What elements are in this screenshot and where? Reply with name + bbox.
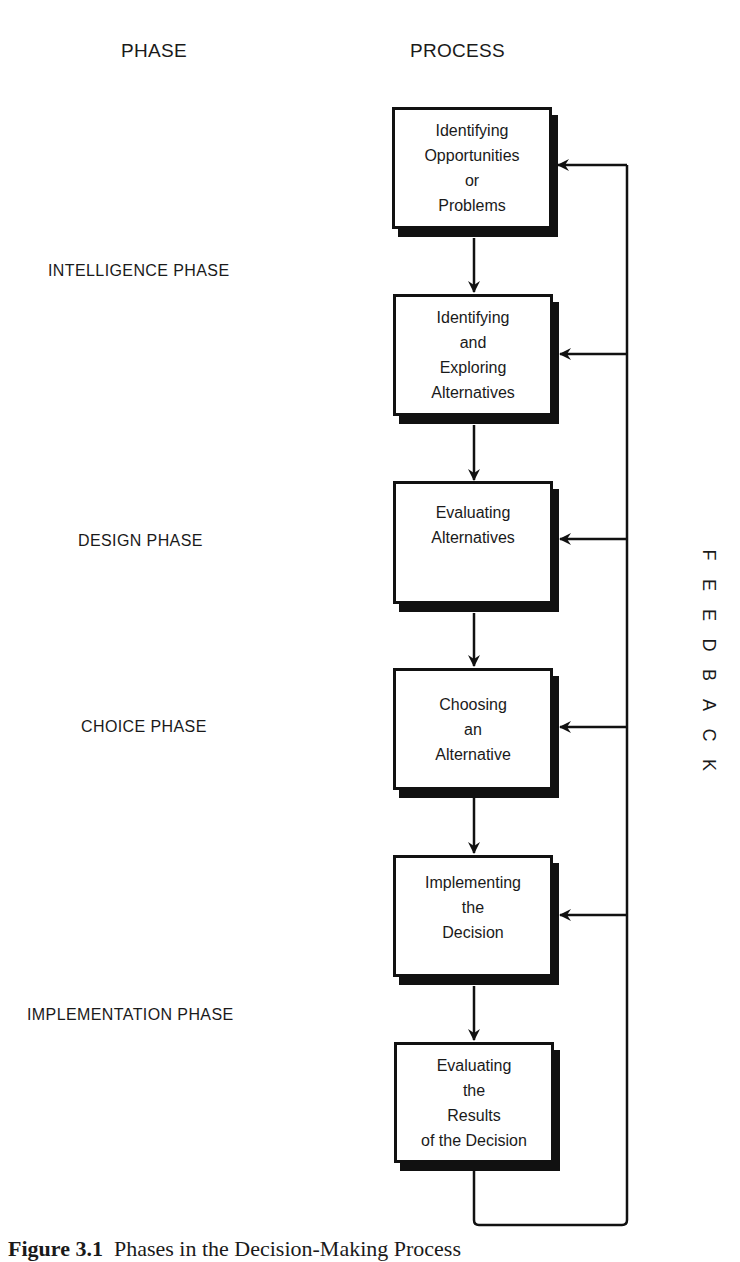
process-step-choosing-alternative: Choosing an Alternative [393, 668, 553, 790]
feedback-letter: F [694, 543, 724, 567]
step-text: Problems [424, 193, 519, 218]
step-text: Evaluating [421, 1053, 527, 1078]
figure-caption: Figure 3.1 Phases in the Decision-Making… [8, 1236, 461, 1262]
feedback-label: F E E D B A C K [697, 540, 721, 780]
feedback-letter: C [694, 723, 724, 747]
step-text: Results [421, 1103, 527, 1128]
step-text: the [425, 895, 521, 920]
process-step-exploring-alternatives: Identifying and Exploring Alternatives [393, 294, 553, 416]
step-text: Opportunities [424, 143, 519, 168]
step-text: Alternative [435, 742, 511, 767]
process-step-evaluating-results: Evaluating the Results of the Decision [394, 1042, 554, 1163]
step-text: an [435, 717, 511, 742]
step-text: Implementing [425, 870, 521, 895]
step-text: Alternatives [431, 380, 515, 405]
step-text: Choosing [435, 692, 511, 717]
process-step-evaluating-alternatives: Evaluating Alternatives [393, 481, 553, 604]
process-step-identifying-opportunities: Identifying Opportunities or Problems [392, 107, 552, 229]
process-step-implementing-decision: Implementing the Decision [393, 855, 553, 977]
step-text: Identifying [424, 118, 519, 143]
step-text: Alternatives [431, 525, 515, 550]
feedback-letter: E [694, 603, 724, 627]
figure-number: Figure 3.1 [8, 1236, 103, 1261]
step-text: and [431, 330, 515, 355]
feedback-letter: K [694, 753, 724, 777]
step-text: Evaluating [431, 500, 515, 525]
step-text: or [424, 168, 519, 193]
step-text: the [421, 1078, 527, 1103]
step-text: Identifying [431, 305, 515, 330]
step-text: of the Decision [421, 1128, 527, 1153]
step-text: Exploring [431, 355, 515, 380]
feedback-letter: B [694, 663, 724, 687]
feedback-letter: D [694, 633, 724, 657]
figure-caption-text: Phases in the Decision-Making Process [114, 1236, 461, 1261]
feedback-letter: A [694, 693, 724, 717]
feedback-letter: E [694, 573, 724, 597]
step-text: Decision [425, 920, 521, 945]
